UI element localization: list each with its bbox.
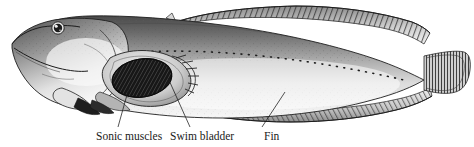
label-swim-bladder: Swim bladder <box>170 131 234 143</box>
label-sonic-muscles: Sonic muscles <box>96 131 162 143</box>
fish-anatomy-figure <box>0 0 474 147</box>
label-fin: Fin <box>264 131 279 143</box>
eye <box>52 22 64 34</box>
caudal-fin <box>424 51 470 93</box>
